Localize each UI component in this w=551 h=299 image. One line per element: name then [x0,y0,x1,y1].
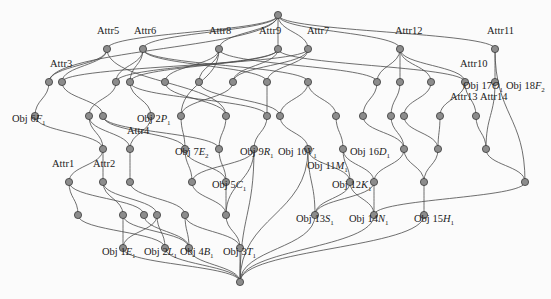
attribute-label: Attr11 [487,26,514,37]
lattice-edge [336,116,343,149]
lattice-edge [438,116,440,149]
lattice-edge [219,116,226,149]
object-label: Obj 16D1 [350,147,390,160]
lattice-edge [476,116,486,149]
lattice-edge [69,182,78,215]
lattice-edge [400,49,431,82]
lattice-node [304,45,311,52]
lattice-edge [157,215,165,248]
attribute-label: Attr9 [259,26,281,37]
object-label: Obj 6F1 [12,114,46,127]
lattice-node [472,112,479,119]
object-label: Obj 18F2 [506,81,545,94]
lattice-node [103,45,110,52]
lattice-node [215,45,222,52]
attribute-label: Attr7 [307,26,329,37]
attribute-label: Attr8 [209,26,231,37]
lattice-node [274,45,281,52]
lattice-edge [363,82,377,116]
lattice-edge [495,49,525,182]
lattice-edge [185,215,240,248]
lattice-node [229,78,236,85]
lattice-node [65,178,72,185]
object-label: Obj 9R1 [240,147,274,160]
lattice-node [126,78,133,85]
lattice-edge [374,182,525,215]
lattice-edge [308,82,336,116]
lattice-edge [404,116,438,149]
object-label: Obj 2L1 [144,247,177,260]
lattice-edge [280,116,308,149]
attribute-label: Attr1 [52,159,74,170]
object-label: Obj 1E1 [102,247,136,260]
attribute-label: Attr10 [460,59,487,70]
object-label: Obj 12K1 [332,180,371,193]
lattice-edge [486,149,525,182]
lattice-edge [130,82,151,116]
lattice-node [139,45,146,52]
lattice-node [436,112,443,119]
lattice-node [396,78,403,85]
attribute-label: Attr5 [97,26,119,37]
lattice-node [263,112,270,119]
lattice-edge [199,82,280,116]
lattice-edge [424,149,438,182]
lattice-edge [103,182,157,215]
object-label: Obj 11M1 [307,161,348,174]
lattice-node [99,145,106,152]
object-label: Obj 5C1 [212,180,246,193]
lattice-node [359,112,366,119]
lattice-edge [89,116,130,149]
lattice-edge [404,82,431,116]
lattice-node [304,78,311,85]
lattice-node [400,145,407,152]
lattice-node [491,45,498,52]
lattice-edge [130,49,143,82]
lattice-node [370,178,377,185]
lattice-edge [62,82,103,116]
object-label: Obj 14N1 [349,214,388,227]
lattice-node [332,112,339,119]
lattice-edge [69,182,144,215]
lattice-node [276,112,283,119]
lattice-node [482,145,489,152]
lattice-node [420,178,427,185]
lattice-edge [280,82,308,116]
lattice-node [195,78,202,85]
lattice-node [58,78,65,85]
lattice-node [400,112,407,119]
lattice-edge [144,215,189,248]
lattice-node [215,145,222,152]
object-label: Obj 15H1 [414,214,454,227]
lattice-node [74,211,81,218]
object-label: Obj 17O1 [463,81,503,94]
lattice-node [99,112,106,119]
attribute-label: Attr4 [127,126,149,137]
lattice-edge [404,149,424,182]
lattice-node [161,78,168,85]
lattice-node [85,112,92,119]
lattice-diagram [0,0,551,299]
lattice-edge [116,49,278,82]
lattice-node [427,78,434,85]
lattice-edge [78,215,165,248]
object-label: Obj 10V1 [278,147,317,160]
lattice-node [396,45,403,52]
lattice-node [222,211,229,218]
lattice-node [126,145,133,152]
lattice-node [177,112,184,119]
lattice-edge [400,49,465,82]
lattice-node [119,211,126,218]
lattice-edge [89,82,116,116]
lattice-node [99,178,106,185]
lattice-node [236,278,243,285]
lattice-edge [123,215,157,248]
lattice-edge [165,49,219,82]
lattice-node [387,112,394,119]
lattice-node [521,178,528,185]
lattice-edge [391,116,404,149]
lattice-edge [254,116,267,149]
lattice-node [126,178,133,185]
lattice-node [373,78,380,85]
object-label: Obj 4B1 [180,247,214,260]
